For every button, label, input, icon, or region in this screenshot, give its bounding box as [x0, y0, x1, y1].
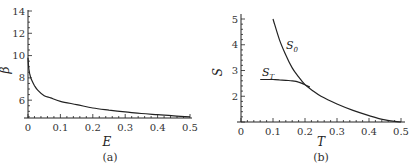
x-tick-label: 0	[238, 126, 244, 137]
x-tick-label: 0.2	[297, 126, 313, 137]
panel-b: 00.10.20.30.40.5 2345 S0 ST T S (b)	[211, 14, 409, 165]
panel-a-beta-curve	[28, 58, 190, 117]
panel-b-st-curve	[260, 80, 310, 88]
panel-b-y-tick-labels: 2345	[232, 14, 238, 102]
y-tick-label: 6	[19, 95, 25, 106]
panel-a-ticks	[28, 11, 190, 118]
y-tick-label: 3	[232, 65, 238, 76]
y-tick-label: 10	[12, 50, 25, 61]
x-tick-label: 0	[25, 122, 31, 133]
panel-a-y-tick-labels: 68101214	[12, 6, 25, 106]
x-tick-label: 0.5	[393, 126, 409, 137]
panel-a-y-axis-label: β	[0, 66, 12, 74]
panel-a-x-axis-label: E	[102, 135, 112, 149]
figure: 00.10.20.30.40.5 68101214 E β (a) 00.10.…	[0, 0, 410, 168]
panel-a-caption: (a)	[102, 151, 117, 164]
panel-b-x-axis-label: T	[317, 135, 326, 149]
x-tick-label: 0.1	[52, 122, 68, 133]
x-tick-label: 0.1	[265, 126, 281, 137]
panel-b-caption: (b)	[313, 151, 329, 164]
y-tick-label: 2	[232, 91, 238, 102]
panel-b-y-axis-label: S	[211, 68, 225, 76]
panel-b-st-label: ST	[262, 66, 276, 81]
x-tick-label: 0.3	[117, 122, 133, 133]
panel-b-s0-label: S0	[286, 39, 299, 54]
y-tick-label: 4	[232, 39, 238, 50]
panel-b-s0-curve	[273, 19, 401, 122]
y-tick-label: 14	[12, 6, 25, 17]
x-tick-label: 0.2	[85, 122, 101, 133]
panel-a-x-tick-labels: 00.10.20.30.40.5	[25, 122, 198, 133]
x-tick-label: 0.5	[182, 122, 198, 133]
x-tick-label: 0.4	[150, 122, 166, 133]
y-tick-label: 12	[12, 28, 25, 39]
x-tick-label: 0.4	[361, 126, 377, 137]
panel-a: 00.10.20.30.40.5 68101214 E β (a)	[0, 6, 198, 165]
y-tick-label: 8	[19, 72, 25, 83]
x-tick-label: 0.3	[329, 126, 345, 137]
y-tick-label: 5	[232, 14, 238, 25]
